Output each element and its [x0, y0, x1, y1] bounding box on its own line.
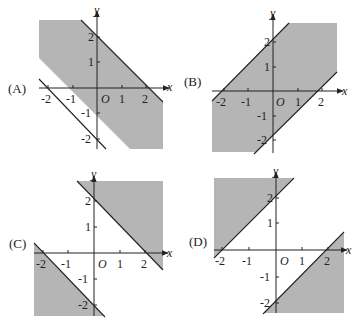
- panel-b: (B) -2 -1 O 1 2 2 1 -1 -2 x y: [184, 6, 348, 154]
- x-axis-label: x: [341, 84, 348, 98]
- origin-label: O: [101, 92, 110, 106]
- panel-label: (A): [8, 81, 26, 96]
- y-tick-label: -1: [81, 106, 91, 120]
- y-tick-label: -2: [257, 133, 267, 147]
- y-axis-label: y: [90, 167, 97, 181]
- y-tick-label: 1: [88, 55, 94, 69]
- y-tick-label: 2: [264, 35, 270, 49]
- y-tick-label: 1: [267, 216, 273, 230]
- x-tick-label: 1: [295, 95, 301, 109]
- x-tick-label: -1: [241, 95, 251, 109]
- panel-label: (B): [184, 74, 201, 89]
- panel-label: (C): [9, 236, 26, 251]
- y-axis-label: y: [272, 164, 279, 178]
- x-tick-label: 1: [299, 254, 305, 268]
- y-tick-label: 2: [88, 30, 94, 44]
- x-tick-label: -2: [215, 254, 225, 268]
- y-tick-label: 1: [264, 60, 270, 74]
- x-tick-label: 1: [117, 257, 123, 271]
- origin-label: O: [98, 257, 107, 271]
- x-tick-label: 2: [318, 95, 324, 109]
- x-tick-label: 2: [324, 254, 330, 268]
- y-tick-label: -1: [257, 109, 267, 123]
- x-tick-label: 1: [119, 92, 125, 106]
- origin-label: O: [276, 95, 285, 109]
- y-axis-label: y: [93, 3, 100, 17]
- x-tick-label: -2: [41, 92, 51, 106]
- y-tick-label: 2: [85, 194, 91, 208]
- panel-label: (D): [189, 234, 207, 249]
- y-axis-label: y: [269, 6, 276, 20]
- panel-d: (D) -2 -1 O 1 2 2 1 -1 -2 x y: [189, 164, 352, 314]
- origin-label: O: [280, 254, 289, 268]
- y-tick-label: -2: [81, 132, 91, 146]
- panel-a: (A) -2 -1 O 1 2 2 1 -1 -2 x y: [8, 3, 173, 149]
- x-tick-label: 2: [142, 92, 148, 106]
- x-axis-label: x: [345, 243, 352, 257]
- y-tick-label: -1: [78, 272, 88, 286]
- x-tick-label: -1: [66, 92, 76, 106]
- x-axis-label: x: [166, 246, 173, 260]
- shaded-region-upper-left: [214, 178, 293, 257]
- x-tick-label: -2: [36, 257, 46, 271]
- y-tick-label: -2: [78, 298, 88, 312]
- x-tick-label: 2: [141, 257, 147, 271]
- x-tick-label: -1: [242, 254, 252, 268]
- y-tick-label: 1: [85, 220, 91, 234]
- x-tick-label: -2: [216, 95, 226, 109]
- y-tick-label: -1: [260, 270, 270, 284]
- x-axis-label: x: [166, 80, 173, 94]
- x-tick-label: -1: [61, 257, 71, 271]
- y-tick-label: -2: [260, 296, 270, 310]
- figure-canvas: (A) -2 -1 O 1 2 2 1 -1 -2 x y (B): [0, 0, 363, 329]
- y-tick-label: 2: [267, 191, 273, 205]
- panel-c: (C) -2 -1 O 1 2 2 1 -1 -2 x y: [9, 167, 173, 317]
